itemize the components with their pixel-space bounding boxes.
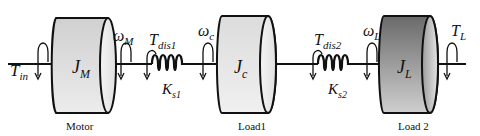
omega-m-arrow-icon (121, 43, 131, 76)
omega-c-label: ωc (198, 22, 214, 42)
omega-m-label: ωM (113, 27, 134, 47)
omega-c-arrow-icon (203, 43, 213, 76)
t-dis1-label: Tdis1 (149, 31, 176, 51)
load1-inertia: Jc Load1 (217, 16, 276, 132)
load1-caption: Load1 (238, 120, 266, 132)
omega-l-arrow-icon (367, 43, 377, 76)
load2-caption: Load 2 (398, 120, 429, 132)
load2-inertia: JL Load 2 (379, 16, 438, 132)
t-dis2-label: Tdis2 (314, 31, 342, 51)
spring1 (152, 55, 184, 70)
k-s1-label: Ks1 (161, 81, 181, 100)
omega-l-label: ωL (363, 22, 380, 42)
t-l-label: TL (451, 22, 466, 42)
motor-inertia: JM Motor (52, 18, 116, 132)
t-in-arrow-icon (38, 43, 48, 76)
k-s2-label: Ks2 (327, 81, 347, 100)
drive-train-diagram: JM Motor Jc Load1 JL Load 2 (0, 0, 480, 136)
t-l-arrow-icon (447, 43, 457, 76)
motor-caption: Motor (66, 120, 94, 132)
spring2 (318, 55, 350, 70)
